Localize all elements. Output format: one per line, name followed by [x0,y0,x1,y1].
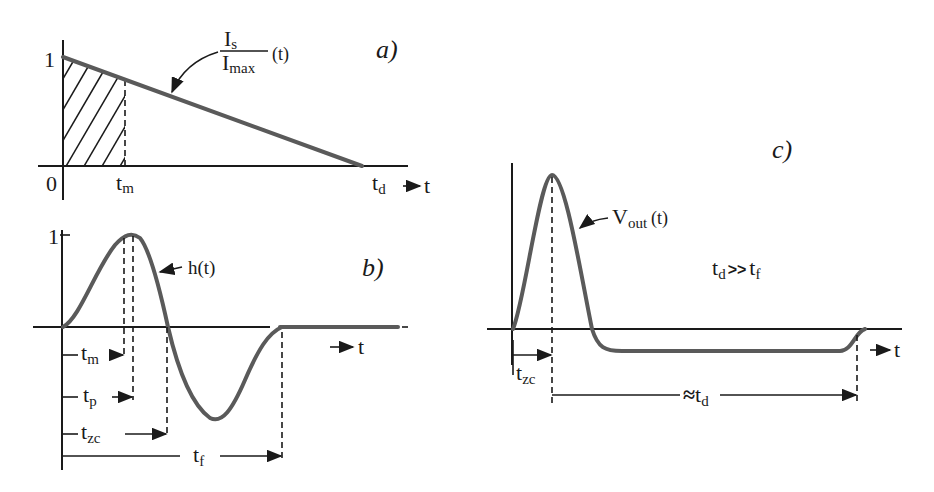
panel-b-label: b) [362,253,384,282]
panel-c-t-axis: t [894,337,900,362]
curve-label-arg: (t) [272,44,289,65]
panel-a [4,40,408,200]
vout-curve-label: Vout(t) [612,204,668,231]
curve-label-den: Imax [222,50,256,76]
h-curve-label: h(t) [188,257,215,279]
interval-tzc: tzc [81,419,101,446]
panel-a-td: td [372,170,386,197]
interval-tf: tf [193,442,204,469]
condition-td-gg-tf: td>>tf [712,255,760,282]
diagram-canvas: a) 1 0 tm td t Is Imax (t) b) 1 h(t) t t… [0,0,934,492]
panel-c [487,163,902,405]
panel-b-t-axis: t [358,334,364,359]
panel-a-tm: tm [116,170,134,196]
panel-a-t-axis: t [424,173,430,198]
interval-tm: tm [81,340,99,367]
panel-b-y-tick: 1 [48,224,59,249]
interval-c-td: ≈td [683,382,709,409]
curve-label-num: Is [224,26,237,52]
panel-a-y-tick: 1 [44,47,55,72]
interval-tp: tp [83,382,97,409]
panel-a-origin: 0 [46,171,57,196]
interval-c-tzc: tzc [516,360,536,387]
panel-c-label: c) [772,135,792,164]
panel-a-label: a) [376,35,398,64]
